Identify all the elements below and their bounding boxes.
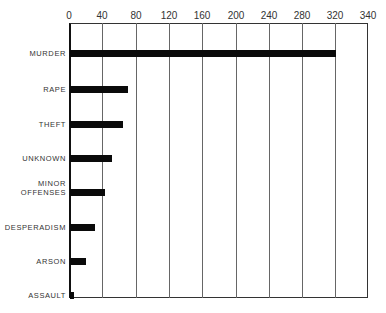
x-tick-label: 80 <box>130 10 141 21</box>
x-tick-label: 0 <box>66 10 72 21</box>
bar-theft <box>70 121 123 128</box>
x-tick-label: 280 <box>294 10 311 21</box>
x-tick-label: 240 <box>261 10 278 21</box>
category-label-murder: MURDER <box>29 49 66 58</box>
horizontal-bar-chart: 0 40 80 120 160 200 240 280 320 340 MURD… <box>0 0 386 313</box>
x-tick-label: 340 <box>360 10 377 21</box>
gridline <box>236 23 237 298</box>
category-label-arson: ARSON <box>36 257 66 266</box>
gridline <box>335 23 336 298</box>
category-label-assault: ASSAULT <box>28 291 66 300</box>
category-label-unknown: UNKNOWN <box>22 154 66 163</box>
gridline <box>202 23 203 298</box>
bar-minor-offenses <box>70 189 105 196</box>
plot-area <box>69 23 368 298</box>
gridline <box>136 23 137 298</box>
bar-rape <box>70 86 128 93</box>
category-label-rape: RAPE <box>43 85 66 94</box>
x-tick-label: 160 <box>194 10 211 21</box>
bar-unknown <box>70 155 112 162</box>
x-tick-label: 200 <box>228 10 245 21</box>
bar-murder <box>70 50 336 57</box>
x-tick-label: 320 <box>327 10 344 21</box>
bar-desperadism <box>70 224 95 231</box>
x-tick-label: 40 <box>96 10 107 21</box>
category-label-theft: THEFT <box>39 120 66 129</box>
gridline <box>169 23 170 298</box>
gridline <box>269 23 270 298</box>
bar-assault <box>70 292 74 299</box>
bar-arson <box>70 258 86 265</box>
category-label-desperadism: DESPERADISM <box>5 223 66 232</box>
x-tick-label: 120 <box>161 10 178 21</box>
category-label-minor-offenses: MINOR OFFENSES <box>21 179 66 197</box>
gridline <box>302 23 303 298</box>
